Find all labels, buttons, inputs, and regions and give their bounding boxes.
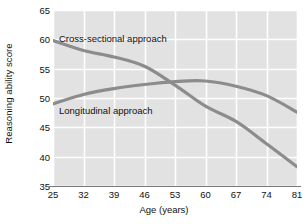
y-tick-label: 50 <box>39 93 50 104</box>
annotation-cross-sectional: Cross-sectional approach <box>59 33 167 44</box>
chart-figure: Reasoning ability score 35404550556065 2… <box>0 0 306 224</box>
x-axis-tick-labels: 253239465360677481 <box>0 189 306 205</box>
x-tick-label: 39 <box>109 189 120 200</box>
x-tick-label: 74 <box>261 189 272 200</box>
x-tick-label: 53 <box>170 189 181 200</box>
y-tick-label: 65 <box>39 5 50 16</box>
x-tick-label: 25 <box>48 189 59 200</box>
y-axis-title-text: Reasoning ability score <box>3 43 14 144</box>
x-tick-label: 67 <box>231 189 242 200</box>
x-axis-title: Age (years) <box>0 204 306 215</box>
x-tick-label: 60 <box>200 189 211 200</box>
x-axis-line <box>49 186 301 187</box>
x-tick-label: 32 <box>78 189 89 200</box>
y-tick-label: 40 <box>39 151 50 162</box>
x-tick-label: 81 <box>292 189 303 200</box>
annotation-longitudinal: Longitudinal approach <box>59 105 153 116</box>
x-tick-label: 46 <box>139 189 150 200</box>
x-axis-title-text: Age (years) <box>139 204 188 215</box>
y-tick-label: 55 <box>39 63 50 74</box>
y-axis-title: Reasoning ability score <box>0 0 16 186</box>
y-tick-label: 60 <box>39 34 50 45</box>
y-tick-label: 45 <box>39 122 50 133</box>
